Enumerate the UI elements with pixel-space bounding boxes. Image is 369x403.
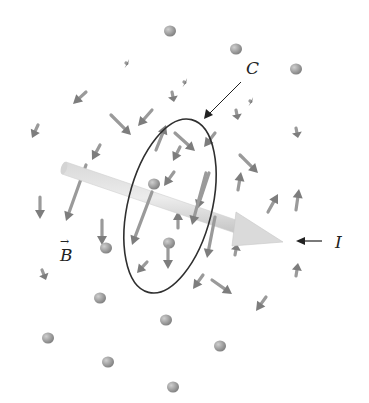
field-arrow-endon — [214, 341, 226, 352]
field-arrow-shaft — [175, 133, 188, 145]
field-arrow-head — [204, 248, 214, 258]
field-arrow — [256, 297, 266, 311]
field-arrow — [268, 194, 278, 212]
field-arrow — [290, 64, 302, 75]
field-arrow-shaft — [198, 275, 203, 282]
field-arrow — [183, 78, 187, 87]
field-arrow-shaft — [111, 115, 125, 129]
field-arrow-endon — [94, 293, 106, 304]
current-label-i: I — [335, 234, 342, 251]
field-arrow-endon — [290, 64, 302, 75]
field-arrow-shaft — [80, 92, 86, 98]
field-arrow — [292, 128, 302, 138]
field-arrow-endon — [160, 315, 172, 326]
field-arrow-shaft — [238, 181, 240, 190]
field-label-text: B — [60, 245, 73, 265]
field-arrow-head — [293, 189, 303, 199]
curve-label-text: C — [246, 58, 259, 78]
field-arrow-shaft — [172, 92, 173, 97]
field-arrow — [111, 115, 131, 135]
field-arrow — [168, 92, 178, 102]
field-arrow — [164, 172, 174, 186]
field-arrow-shaft — [236, 110, 237, 115]
field-arrow-head — [163, 260, 173, 269]
field-arrow-shaft — [42, 270, 44, 275]
field-arrow-shaft — [240, 155, 252, 167]
field-arrow-shaft — [177, 147, 180, 153]
wire-arrowhead — [232, 212, 283, 246]
field-arrow — [97, 220, 107, 245]
field-arrow-head — [292, 263, 302, 271]
field-arrow — [35, 197, 45, 219]
current-pointer-arrowhead — [296, 237, 305, 245]
field-arrow — [230, 44, 242, 55]
field-label-b: → B — [60, 247, 73, 264]
field-arrow — [292, 263, 302, 276]
field-arrow — [73, 92, 86, 104]
field-arrow — [172, 147, 181, 161]
field-arrow — [235, 172, 245, 190]
field-arrow-shaft — [212, 280, 225, 289]
field-arrow-head — [35, 210, 45, 219]
field-arrow-shaft — [169, 172, 174, 179]
field-arrow — [92, 145, 101, 160]
field-arrow-endon — [230, 44, 242, 55]
field-arrow-endon — [167, 382, 179, 393]
field-arrow-shaft — [296, 128, 297, 133]
field-arrow-shaft — [144, 110, 152, 119]
ampere-law-diagram — [0, 0, 369, 403]
field-arrow-endon — [100, 243, 112, 254]
field-arrow — [148, 179, 160, 190]
field-arrow-shaft — [261, 297, 266, 304]
field-arrow — [125, 59, 129, 68]
field-arrow-head — [235, 172, 245, 182]
field-arrow — [31, 125, 40, 138]
field-arrow — [100, 243, 112, 254]
field-arrow-endon — [164, 26, 176, 37]
current-label-text: I — [335, 232, 342, 252]
field-arrow-shaft — [96, 145, 100, 152]
field-arrow — [42, 333, 54, 344]
field-arrow — [160, 315, 172, 326]
field-arrow-endon — [42, 333, 54, 344]
curve-label-c: C — [246, 60, 259, 77]
field-arrow — [164, 26, 176, 37]
field-arrow — [293, 189, 303, 210]
field-arrow-shaft — [296, 198, 298, 210]
field-arrow — [214, 341, 226, 352]
field-arrow-endon — [102, 357, 114, 368]
field-arrow — [94, 293, 106, 304]
field-arrow — [240, 155, 258, 173]
field-arrow — [232, 110, 242, 120]
field-arrow — [138, 110, 152, 126]
field-arrow-shaft — [268, 202, 274, 212]
field-arrow-shaft — [235, 250, 236, 255]
field-arrow — [102, 357, 114, 368]
field-arrow — [137, 262, 147, 273]
field-arrow-shaft — [35, 125, 38, 131]
field-arrow — [167, 382, 179, 393]
field-arrow — [212, 280, 232, 294]
field-arrow — [249, 97, 253, 106]
current-pointer — [296, 237, 322, 245]
curve-pointer-arrowhead — [204, 109, 213, 119]
field-arrow — [193, 275, 203, 289]
field-arrow-endon — [148, 179, 160, 190]
field-arrow — [163, 246, 173, 269]
field-arrow — [39, 270, 48, 280]
vector-arrow-mark: → — [60, 236, 69, 247]
field-arrow-shaft — [296, 270, 297, 276]
field-arrow-shaft — [143, 262, 148, 267]
